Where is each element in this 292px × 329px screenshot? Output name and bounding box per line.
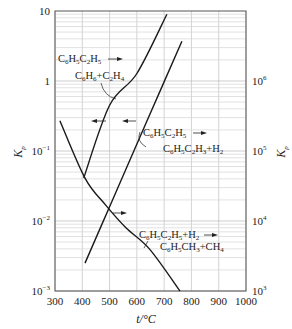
y-tick-label-left: 10−1 xyxy=(32,144,51,157)
series-curve-3 xyxy=(60,121,180,291)
x-tick-label: 300 xyxy=(47,295,64,307)
x-tick-label: 900 xyxy=(210,295,227,307)
annotation-toluene-methane: C6H5C2H5+H2 C6H5CH3+CH4 xyxy=(113,211,224,254)
x-tick-label: 800 xyxy=(183,295,200,307)
x-tick-label: 600 xyxy=(129,295,146,307)
x-tick-label: 700 xyxy=(156,295,173,307)
y-tick-label-left: 10 xyxy=(39,5,51,17)
y-axis-right-label: Kp xyxy=(274,146,290,159)
reactant-label-2: C6H5C2H5 xyxy=(143,127,187,140)
y-tick-label-right: 104 xyxy=(252,214,267,227)
y-tick-label-left: 1 xyxy=(45,75,51,87)
y-axis-left-ticks: 10110−110−210−3 xyxy=(32,5,51,297)
annotation-styrene-hydrogen: C6H5C2H5 C6H5C2H3+H2 xyxy=(122,119,224,156)
reactant-label-1: C6H5C2H5 xyxy=(58,53,102,66)
y-tick-label-right: 105 xyxy=(252,144,267,157)
y-tick-label-right: 103 xyxy=(252,284,267,297)
y-axis-left-label: Kp xyxy=(11,146,27,159)
y-axis-right-ticks: 106105104103 xyxy=(252,74,267,297)
y-tick-label-left: 10−2 xyxy=(32,214,51,227)
product-label-3: C6H5CH3+CH4 xyxy=(160,241,224,254)
x-axis-ticks: 3004005006007008009001000 xyxy=(47,295,258,307)
y-tick-label-right: 106 xyxy=(252,74,267,87)
x-tick-label: 400 xyxy=(74,295,91,307)
equilibrium-constant-chart: 3004005006007008009001000 10110−110−210−… xyxy=(0,0,292,329)
x-tick-label: 500 xyxy=(101,295,118,307)
x-axis-label: t/°C xyxy=(136,312,156,326)
